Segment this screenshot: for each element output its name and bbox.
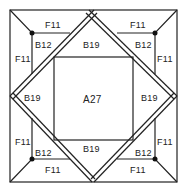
corner-bl-side-triangle: F11 <box>15 137 31 147</box>
side-label-left: B19 <box>24 93 41 103</box>
corner-br-square: B12 <box>135 148 152 158</box>
corner-tr-side-triangle: F11 <box>157 54 173 64</box>
corner-bl-bottom-triangle: F11 <box>45 165 61 175</box>
side-label-bottom: B19 <box>83 144 100 154</box>
corner-tl-side-triangle: F11 <box>15 54 31 64</box>
corner-dot <box>153 31 158 36</box>
corner-tr-top-triangle: F11 <box>130 20 146 30</box>
corner-tl-square: B12 <box>35 40 52 50</box>
corner-br-side-triangle: F11 <box>157 137 173 147</box>
corner-br-bottom-triangle: F11 <box>130 165 146 175</box>
corner-bl-square: B12 <box>35 148 52 158</box>
center-label: A27 <box>83 94 102 105</box>
corner-tr-square: B12 <box>135 40 152 50</box>
corner-tl-top-triangle: F11 <box>45 20 61 30</box>
corner-dot <box>30 157 35 162</box>
side-label-top: B19 <box>83 40 100 50</box>
corner-dot <box>30 31 35 36</box>
corner-dot <box>153 157 158 162</box>
side-label-right: B19 <box>141 93 158 103</box>
